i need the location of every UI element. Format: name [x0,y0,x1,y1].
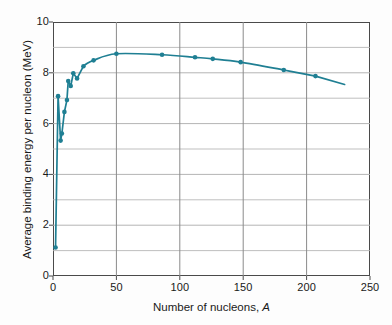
x-tick-label-50: 50 [96,282,136,293]
x-tick-label-100: 100 [160,282,200,293]
axis-tick-marks [53,22,370,276]
x-axis-title-text: Number of nucleons, [153,301,262,313]
x-axis-ticks [53,276,370,280]
y-axis-title: Average binding energy per nucleon (MeV) [21,20,34,280]
binding-energy-figure: 10 8 6 4 2 0 0 50 100 150 200 250 Number [0,0,392,325]
x-tick-label-150: 150 [223,282,263,293]
x-tick-label-0: 0 [33,282,73,293]
x-axis-title-symbol: A [262,301,270,313]
y-axis-ticks [49,22,53,276]
plot-area [53,22,370,276]
x-axis-title: Number of nucleons, A [53,301,370,314]
x-axis-tick-labels: 0 50 100 150 200 250 [53,282,370,298]
x-tick-label-200: 200 [287,282,327,293]
x-tick-label-250: 250 [350,282,390,293]
